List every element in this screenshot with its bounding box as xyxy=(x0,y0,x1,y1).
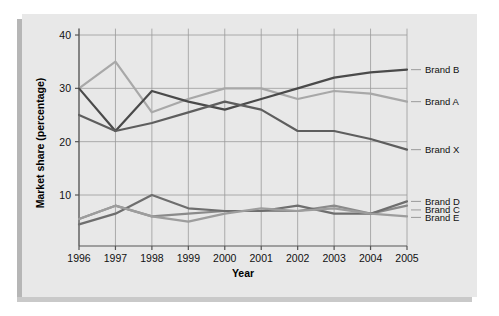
chart-figure: 1020304019961997199819992000200120022003… xyxy=(0,0,499,316)
legend-label-brand-b: Brand B xyxy=(425,64,459,75)
x-tick-label: 1996 xyxy=(67,252,91,264)
x-tick-label: 2005 xyxy=(395,252,419,264)
x-tick-label: 1999 xyxy=(177,252,201,264)
x-axis-title: Year xyxy=(232,267,254,279)
y-tick-label: 30 xyxy=(59,82,71,94)
x-tick-label: 2000 xyxy=(213,252,237,264)
x-tick-label: 2004 xyxy=(359,252,383,264)
x-tick-label: 2002 xyxy=(286,252,310,264)
x-tick-label: 2003 xyxy=(322,252,346,264)
legend-label-brand-x: Brand X xyxy=(425,144,460,155)
legend-label-brand-e: Brand E xyxy=(425,212,459,223)
series-layer xyxy=(79,62,407,225)
series-line-brand-x xyxy=(79,102,407,150)
axis-layer xyxy=(75,29,407,250)
y-tick-label: 40 xyxy=(59,29,71,41)
y-axis-title: Market share (percentage) xyxy=(34,78,46,209)
legend-layer: Brand BBrand ABrand XBrand DBrand CBrand… xyxy=(411,64,460,223)
line-chart-plot: 1020304019961997199819992000200120022003… xyxy=(0,0,499,316)
y-tick-label: 20 xyxy=(59,136,71,148)
x-tick-label: 2001 xyxy=(250,252,274,264)
legend-label-brand-a: Brand A xyxy=(425,96,459,107)
x-tick-label: 1998 xyxy=(140,252,164,264)
y-tick-label: 10 xyxy=(59,189,71,201)
x-tick-label: 1997 xyxy=(104,252,128,264)
